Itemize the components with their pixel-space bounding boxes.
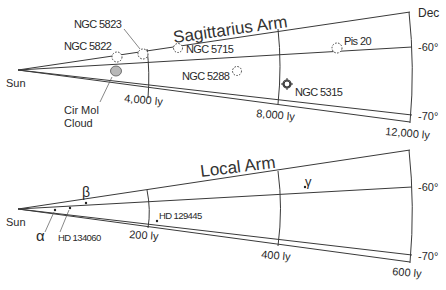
cir-mol-cloud-icon (111, 66, 122, 76)
alpha-label: α (36, 227, 45, 244)
arc-200-ly (147, 190, 149, 228)
beta-label: β (82, 184, 90, 200)
ngc-5288-label: NGC 5288 (182, 70, 230, 82)
hd-134060-label: HD 134060 (58, 232, 101, 243)
dec-tick-70-bottom: -70° (418, 250, 438, 262)
sun-label-top: Sun (6, 77, 26, 89)
hd-134060-leader (60, 210, 69, 232)
local-dec-60-line (18, 187, 412, 209)
local-wedge-top-edge (18, 150, 410, 209)
ngc-5315-label: NGC 5315 (295, 86, 343, 98)
dec-tick-60-bottom: -60° (418, 181, 438, 193)
distance-label-4000: 4,000 ly (124, 92, 164, 107)
arc-8000-ly (278, 29, 280, 104)
arc-600-ly (409, 150, 412, 263)
ngc-5315-crosshair-icon (281, 78, 293, 90)
ngc-5715-label: NGC 5715 (186, 43, 234, 55)
pis-20-marker-icon (332, 43, 342, 53)
ngc-5288-marker-icon (233, 67, 242, 76)
alpha-leader (45, 212, 54, 232)
alpha-star-icon (54, 209, 56, 211)
local-arm-title: Local Arm (199, 153, 276, 181)
ngc-5823-marker-icon (138, 49, 148, 59)
distance-label-200: 200 ly (129, 228, 160, 242)
ngc-5823-label: NGC 5823 (74, 18, 122, 30)
pis-20-label: Pis 20 (344, 35, 371, 47)
sun-label-bottom: Sun (6, 216, 26, 228)
cir-mol-cloud-label-line1: Cir Mol (64, 104, 99, 116)
hd-129445-label: HD 129445 (159, 210, 202, 221)
arc-400-ly (278, 171, 281, 246)
ngc-5823-leader (124, 29, 140, 49)
diagram-canvas: Sagittarius Arm Dec -60° -70° Sun 4,000 … (0, 0, 446, 290)
distance-label-8000: 8,000 ly (256, 107, 296, 122)
distance-label-600: 600 ly (392, 265, 423, 280)
ngc-5822-marker-icon (112, 52, 122, 62)
ngc-5715-marker-icon (174, 44, 183, 53)
dec-tick-60-top: -60° (418, 41, 438, 53)
sagittarius-arm-title: Sagittarius Arm (172, 12, 289, 47)
hd-134060-star-icon (69, 207, 71, 209)
dec-axis-label: Dec (418, 6, 439, 20)
beta-star-icon (85, 202, 87, 204)
distance-label-12000: 12,000 ly (385, 125, 431, 141)
ngc-5822-label: NGC 5822 (64, 40, 112, 52)
local-stars: α HD 134060 β HD 129445 γ (36, 174, 312, 244)
distance-label-400: 400 ly (261, 248, 292, 263)
gamma-label: γ (305, 174, 312, 189)
cir-mol-cloud-label-line2: Cloud (64, 117, 93, 129)
hd-129445-star-icon (156, 220, 158, 222)
dec-tick-70-top: -70° (418, 110, 438, 122)
arc-12000-ly (409, 12, 412, 123)
